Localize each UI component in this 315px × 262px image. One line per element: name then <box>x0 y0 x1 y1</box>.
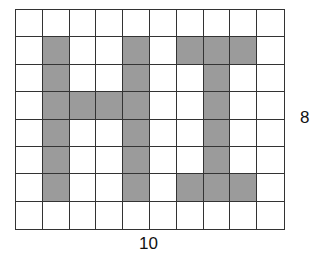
grid-cell-filled <box>204 65 231 92</box>
grid-cell-filled <box>204 120 231 147</box>
grid-cell <box>257 147 284 174</box>
grid-cell-filled <box>123 37 150 64</box>
grid-cell <box>230 65 257 92</box>
grid-cell-filled <box>177 174 204 201</box>
grid-cell <box>230 147 257 174</box>
grid-cell-filled <box>43 65 70 92</box>
grid-cell-filled <box>43 147 70 174</box>
grid-cell <box>43 202 70 229</box>
grid-cell <box>16 147 43 174</box>
grid-cell <box>70 37 97 64</box>
grid-cell <box>230 120 257 147</box>
grid-cell <box>70 120 97 147</box>
grid-height-label: 8 <box>300 108 309 128</box>
grid-cell-filled <box>43 120 70 147</box>
grid-cell <box>70 174 97 201</box>
grid-cell <box>16 202 43 229</box>
grid-cell <box>16 37 43 64</box>
grid-cell-filled <box>204 92 231 119</box>
grid-cell <box>204 202 231 229</box>
grid-cell <box>96 65 123 92</box>
grid-cell <box>150 37 177 64</box>
grid-cell-filled <box>230 37 257 64</box>
grid-cell <box>96 147 123 174</box>
grid-cell-filled <box>123 147 150 174</box>
grid-cell <box>230 202 257 229</box>
grid-cell <box>16 10 43 37</box>
grid-cell <box>177 202 204 229</box>
grid-cell <box>43 10 70 37</box>
grid-cell <box>70 10 97 37</box>
grid-cell <box>16 120 43 147</box>
grid-cell-filled <box>123 120 150 147</box>
grid-cell <box>96 202 123 229</box>
grid-cell <box>96 120 123 147</box>
grid-cell <box>257 202 284 229</box>
grid-cell-filled <box>43 37 70 64</box>
grid-cell <box>96 174 123 201</box>
grid-cell <box>150 202 177 229</box>
grid-cell <box>96 37 123 64</box>
grid-cell <box>204 10 231 37</box>
grid-cell-filled <box>204 174 231 201</box>
letter-grid <box>15 9 285 230</box>
grid-cell <box>257 10 284 37</box>
grid-cell-filled <box>123 65 150 92</box>
grid-cell <box>150 174 177 201</box>
grid-cell <box>257 65 284 92</box>
grid-cell <box>123 10 150 37</box>
grid-cell <box>257 37 284 64</box>
grid-cell <box>177 147 204 174</box>
grid-cell <box>150 92 177 119</box>
grid-cell-filled <box>123 92 150 119</box>
grid-cell-filled <box>230 174 257 201</box>
grid-cell <box>16 65 43 92</box>
grid-cell-filled <box>177 37 204 64</box>
grid-cell <box>257 174 284 201</box>
grid-cell <box>16 92 43 119</box>
grid-cell-filled <box>70 92 97 119</box>
grid-cell <box>16 174 43 201</box>
grid-cell <box>177 120 204 147</box>
grid-cell-filled <box>43 174 70 201</box>
grid-cell <box>150 65 177 92</box>
grid-cell-filled <box>123 174 150 201</box>
grid-cell <box>230 92 257 119</box>
grid-cell <box>150 10 177 37</box>
grid-cell <box>70 202 97 229</box>
grid-cell <box>150 147 177 174</box>
grid-cell <box>177 92 204 119</box>
grid-cell-filled <box>204 37 231 64</box>
grid-cell-filled <box>204 147 231 174</box>
grid-cell <box>177 10 204 37</box>
grid-cell <box>177 65 204 92</box>
grid-cell <box>70 65 97 92</box>
grid-cell <box>150 120 177 147</box>
grid-cell <box>123 202 150 229</box>
grid-cell <box>257 120 284 147</box>
grid-cell-filled <box>43 92 70 119</box>
grid-cell <box>96 10 123 37</box>
grid-cell <box>70 147 97 174</box>
grid-cell-filled <box>96 92 123 119</box>
grid-cell <box>230 10 257 37</box>
grid-width-label: 10 <box>139 234 158 254</box>
grid-cell <box>257 92 284 119</box>
